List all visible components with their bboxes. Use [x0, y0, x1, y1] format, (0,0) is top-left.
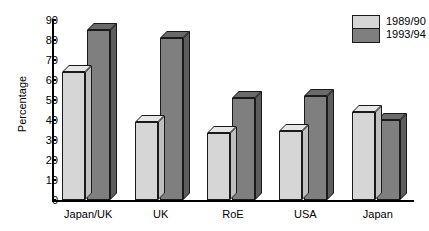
x-axis-label-roe: RoE — [197, 208, 269, 221]
bar-side-face — [327, 89, 334, 200]
y-axis-tick-label: 70 — [8, 54, 58, 66]
legend-swatch-1989-90 — [353, 16, 379, 29]
bar-side-face — [85, 65, 92, 200]
bar-side-face — [158, 115, 165, 200]
legend-swatch-1993-94 — [353, 29, 379, 42]
bar-side-face — [302, 124, 309, 200]
y-axis-tick-label: 40 — [8, 114, 58, 126]
plot-area: 0102030405060708090 Japan/UKUKRoEUSAJapa… — [52, 20, 414, 200]
bar-side-face — [255, 91, 262, 200]
bar-front-face — [279, 131, 302, 200]
x-axis-label-uk: UK — [124, 208, 196, 221]
y-axis-tick-label: 80 — [8, 34, 58, 46]
x-axis-line — [52, 200, 414, 202]
legend-label-1989-90: 1989/90 — [386, 15, 426, 28]
y-axis-tick-label: 20 — [8, 154, 58, 166]
y-axis-tick-label: 90 — [8, 14, 58, 26]
legend-label-1993-94: 1993/94 — [386, 28, 426, 41]
bar-side-face — [230, 126, 237, 200]
bar-side-face — [183, 31, 190, 200]
bar-group — [52, 20, 124, 200]
y-axis-tick-label: 0 — [8, 194, 58, 206]
bar-group — [197, 20, 269, 200]
x-axis-label-japan-uk: Japan/UK — [52, 208, 124, 221]
bar-side-face — [110, 23, 117, 200]
bar-group — [124, 20, 196, 200]
bar-side-face — [400, 113, 407, 200]
y-axis-tick-label: 30 — [8, 134, 58, 146]
y-axis-tick-label: 10 — [8, 174, 58, 186]
bar-front-face — [62, 72, 85, 200]
bar-japan-1989-90 — [352, 112, 375, 200]
y-axis-tick-label: 60 — [8, 74, 58, 86]
y-axis-tick-label: 50 — [8, 94, 58, 106]
bar-front-face — [207, 133, 230, 200]
bar-japan-uk-1989-90 — [62, 72, 85, 200]
x-axis-label-japan: Japan — [342, 208, 414, 221]
bar-uk-1989-90 — [135, 122, 158, 200]
bar-group — [269, 20, 341, 200]
bar-front-face — [135, 122, 158, 200]
x-axis-label-usa: USA — [269, 208, 341, 221]
bar-side-face — [375, 105, 382, 200]
bar-roe-1989-90 — [207, 133, 230, 200]
bar-group — [342, 20, 414, 200]
bar-front-face — [352, 112, 375, 200]
bar-chart: Percentage 0102030405060708090 Japan/UKU… — [0, 0, 429, 231]
bar-usa-1989-90 — [279, 131, 302, 200]
legend-swatch-box — [352, 15, 380, 43]
